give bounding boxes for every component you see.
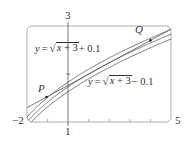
eq-y: y: [88, 77, 93, 88]
lower-curve-equation: y = √x + 3 − 0.1: [88, 75, 153, 87]
upper-curve-equation: y = √x + 3 + 0.1: [35, 42, 100, 54]
sqrt-icon: √x + 3: [50, 42, 79, 54]
eq-y: y: [35, 44, 40, 55]
y-max-label: 3: [65, 10, 71, 21]
point-label-p: P: [38, 83, 45, 94]
x-max-label: 5: [175, 115, 181, 126]
eq-equals: =: [95, 77, 101, 88]
point-marker: [45, 96, 48, 99]
x-min-label: −2: [12, 115, 24, 126]
sqrt-icon: √x + 3: [103, 75, 132, 87]
function-plot: [0, 0, 191, 141]
eq-tail: + 0.1: [79, 44, 101, 55]
eq-tail: − 0.1: [132, 77, 154, 88]
point-label-q: Q: [135, 24, 143, 35]
eq-rad-rest: + 3: [61, 42, 77, 53]
y-min-label: 1: [65, 126, 71, 137]
point-marker: [149, 39, 152, 42]
eq-equals: =: [42, 44, 48, 55]
eq-rad-rest: + 3: [114, 75, 130, 86]
